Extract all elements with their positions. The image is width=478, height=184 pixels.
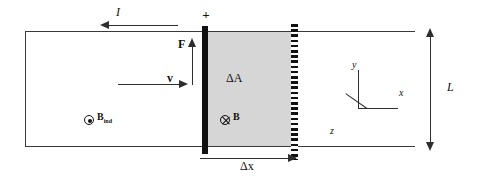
- current-arrow-head: [100, 21, 109, 29]
- hatched-resistor-rail: [291, 24, 298, 160]
- velocity-arrow-head: [179, 80, 188, 88]
- delta-area-label: ΔA: [226, 72, 242, 84]
- physics-diagram-motional-emf: + − I F v ΔA B Bind y x z L Δx: [0, 0, 478, 184]
- field-induced-subscript: ind: [104, 118, 112, 124]
- loop-bottom-rail: [25, 146, 415, 147]
- current-label: I: [116, 6, 120, 18]
- force-arrow-head: [188, 38, 196, 47]
- loop-left-edge: [25, 31, 26, 147]
- axis-z-line: [345, 93, 367, 109]
- swept-area-shading: [208, 32, 294, 146]
- delta-x-label: Δx: [240, 160, 254, 172]
- conducting-bar: [202, 26, 208, 154]
- field-induced-base: B: [97, 111, 104, 122]
- force-label: F: [178, 38, 185, 50]
- length-label: L: [447, 81, 454, 93]
- length-dimension-head-bottom: [426, 142, 434, 151]
- dot-in-circle-icon: [84, 115, 94, 125]
- axis-y-label: y: [352, 60, 356, 70]
- field-induced-label: Bind: [97, 112, 112, 122]
- loop-top-rail: [25, 31, 415, 32]
- field-into-page-label: B: [233, 112, 240, 122]
- length-dimension-shaft: [430, 34, 431, 144]
- velocity-label: v: [167, 72, 173, 84]
- force-arrow-shaft: [192, 45, 193, 85]
- axis-z-label: z: [330, 126, 334, 136]
- axis-x-label: x: [399, 88, 403, 98]
- current-arrow-shaft: [108, 25, 178, 26]
- cross-in-circle-icon: [220, 115, 230, 125]
- length-dimension-head-top: [426, 28, 434, 37]
- terminal-positive-label: +: [198, 8, 214, 21]
- delta-x-dimension-head: [288, 154, 297, 162]
- axis-x-line: [358, 108, 398, 109]
- dot-center: [88, 119, 92, 123]
